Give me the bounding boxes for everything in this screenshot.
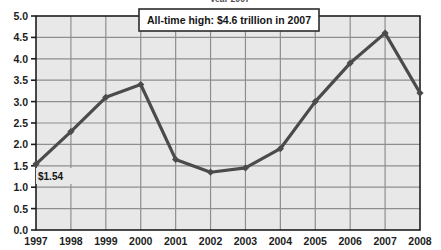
y-axis-tick-label: 4.0	[13, 53, 28, 65]
all-time-high-callout: All-time high: $4.6 trillion in 2007	[139, 9, 319, 31]
y-axis-tick-label: 3.5	[13, 74, 28, 86]
y-axis-tick-label: 2.0	[13, 138, 28, 150]
x-axis-tick-label: 2001	[164, 235, 188, 247]
y-axis-tick-label: 1.5	[13, 160, 28, 172]
x-axis-tick-label: 2005	[304, 235, 328, 247]
x-axis-tick-label: 1997	[24, 235, 48, 247]
x-axis-tick-label: 2000	[129, 235, 153, 247]
x-axis-tick-label: 2004	[269, 235, 293, 247]
x-axis-tick-label: 2003	[234, 235, 258, 247]
x-axis-tick-label: 1998	[59, 235, 83, 247]
y-axis-tick-label: 3.0	[13, 96, 28, 108]
x-axis-tick-label: 2008	[408, 235, 432, 247]
y-axis-tick-label: 0.5	[13, 203, 28, 215]
x-axis-tick-label: 2002	[199, 235, 223, 247]
first-point-label-text: $1.54	[38, 171, 63, 182]
line-chart: year 2007 0.00.51.01.52.02.53.03.54.04.5…	[0, 0, 441, 250]
x-axis-tick-label: 1999	[94, 235, 118, 247]
x-axis-tick-label: 2006	[339, 235, 363, 247]
x-axis-tick-label: 2007	[373, 235, 397, 247]
x-axis-labels: 1997199819992000200120022003200420052006…	[24, 235, 432, 247]
callout-label: All-time high: $4.6 trillion in 2007	[147, 14, 311, 26]
y-axis-tick-label: 5.0	[13, 10, 28, 22]
y-axis-tick-label: 1.0	[13, 181, 28, 193]
y-axis-tick-label: 2.5	[13, 117, 28, 129]
y-axis-tick-label: 4.5	[13, 31, 28, 43]
chart-svg: 0.00.51.01.52.02.53.03.54.04.55.0 199719…	[0, 0, 441, 250]
first-point-label: $1.54	[36, 168, 76, 184]
clipped-chart-title: year 2007	[120, 0, 340, 2]
y-axis-labels: 0.00.51.01.52.02.53.03.54.04.55.0	[13, 10, 28, 236]
